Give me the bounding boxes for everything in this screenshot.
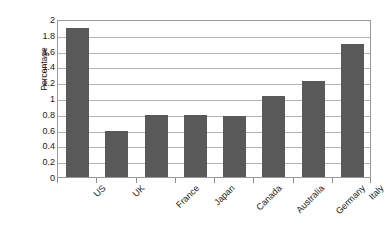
- bar-us: [66, 28, 89, 177]
- y-tick-label: 2: [26, 16, 55, 25]
- bar-chart: Percentage 00.20.40.60.811.21.41.61.82 U…: [0, 0, 392, 233]
- y-tick-label: 0.2: [26, 158, 55, 167]
- bar-japan: [184, 115, 207, 177]
- y-tick-label: 1.4: [26, 63, 55, 72]
- x-label-italy: Italy: [367, 183, 386, 202]
- y-tick-label: 1.8: [26, 31, 55, 40]
- bar-australia: [262, 96, 285, 177]
- y-tick-label: 0.8: [26, 110, 55, 119]
- y-tick-label: 1.2: [26, 79, 55, 88]
- x-label-australia: Australia: [294, 183, 326, 215]
- y-tick-label: 1.6: [26, 47, 55, 56]
- x-label-japan: Japan: [213, 183, 237, 207]
- plot-area: [57, 20, 371, 178]
- y-tick-label: 0: [26, 174, 55, 183]
- y-tick-label: 1: [26, 95, 55, 104]
- y-tick-label: 0.4: [26, 142, 55, 151]
- bar-canada: [223, 116, 246, 177]
- x-label-us: US: [91, 183, 107, 199]
- x-label-france: France: [174, 183, 201, 210]
- y-axis-tick-labels: 00.20.40.60.811.21.41.61.82: [26, 20, 55, 178]
- bar-uk: [105, 131, 128, 177]
- bar-france: [145, 115, 168, 177]
- bar-germany: [302, 81, 325, 177]
- x-axis-category-labels: USUKFranceJapanCanadaAustraliaGermanyIta…: [57, 183, 371, 231]
- x-label-canada: Canada: [254, 183, 283, 212]
- x-label-germany: Germany: [334, 183, 367, 216]
- y-tick-label: 0.6: [26, 126, 55, 135]
- bars-group: [58, 21, 370, 177]
- x-label-uk: UK: [131, 183, 147, 199]
- bar-italy: [341, 44, 364, 177]
